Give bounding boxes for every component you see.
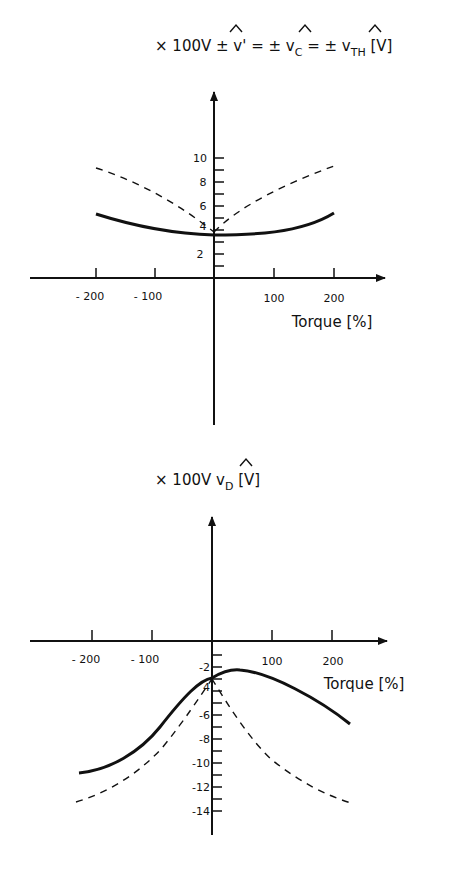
bottom-xtick-m200: - 200 — [72, 653, 100, 666]
hat-icon — [299, 25, 311, 32]
bottom-chart: × 100V vD [V] — [30, 459, 404, 835]
bottom-ytick-m12: -12 — [192, 781, 210, 794]
top-chart-ylabel: × 100V ± v' = ± vC = ± vTH [V] — [155, 37, 392, 59]
top-ytick-2: 2 — [197, 248, 204, 261]
bottom-ytick-m2: -2 — [199, 661, 210, 674]
hat-icon — [369, 25, 381, 32]
bottom-solid-curve — [79, 670, 350, 773]
bottom-xtick-p200: 200 — [323, 655, 344, 668]
bottom-xlabel: Torque [%] — [323, 675, 405, 693]
hat-icon — [230, 25, 242, 32]
bottom-ytick-m8: -8 — [199, 733, 210, 746]
bottom-xtick-p100: 100 — [262, 655, 283, 668]
top-ytick-10: 10 — [193, 152, 207, 165]
top-ytick-8: 8 — [200, 176, 207, 189]
top-xlabel: Torque [%] — [291, 313, 373, 331]
top-ytick-6: 6 — [200, 200, 207, 213]
top-xtick-m100: - 100 — [134, 290, 162, 303]
figure: × 100V ± v' = ± vC = ± vTH [V] — [0, 0, 467, 872]
bottom-chart-ylabel: × 100V vD [V] — [155, 471, 260, 493]
top-xtick-p100: 100 — [264, 292, 285, 305]
top-xtick-m200: - 200 — [76, 290, 104, 303]
bottom-ytick-m10: -10 — [192, 757, 210, 770]
top-y-ticks — [214, 158, 224, 266]
top-xtick-p200: 200 — [324, 292, 345, 305]
bottom-ytick-m6: -6 — [199, 709, 210, 722]
bottom-xtick-m100: - 100 — [131, 653, 159, 666]
bottom-ytick-m14: -14 — [192, 805, 210, 818]
top-chart: × 100V ± v' = ± vC = ± vTH [V] — [30, 25, 392, 425]
hat-icon — [240, 459, 252, 466]
